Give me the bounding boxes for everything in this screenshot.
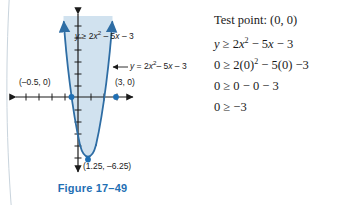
parabola-graph [0,0,200,185]
work-step-1: y ≥ 2x2 − 5x − 3 [214,38,293,51]
test-point-heading: Test point: (0, 0) [214,14,297,27]
root-right-label: (3, 0) [115,78,135,87]
work-step-3: 0 ≥ 0 − 0 − 3 [214,80,279,93]
vertex-label: (1.25, –6.25) [83,162,131,171]
work-step-4: 0 ≥ −3 [214,101,247,114]
root-left-label: (–0.5, 0) [19,78,51,87]
figure-caption: Figure 17–49 [0,182,185,194]
curve-equation-label: y = 2x2– 5x – 3 [130,62,187,71]
point-root-right [113,94,119,100]
test-point-work: Test point: (0, 0) y ≥ 2x2 − 5x − 3 0 ≥ … [214,0,343,205]
point-root-left [69,94,75,100]
work-step-2: 0 ≥ 2(0)2 − 5(0) −3 [214,59,309,72]
figure-page: y ≥ 2x2 – 5x – 3 y = 2x2– 5x – 3 (–0.5, … [0,0,343,205]
graph-figure: y ≥ 2x2 – 5x – 3 y = 2x2– 5x – 3 (–0.5, … [0,0,200,205]
region-inequality-label: y ≥ 2x2 – 5x – 3 [75,32,134,41]
